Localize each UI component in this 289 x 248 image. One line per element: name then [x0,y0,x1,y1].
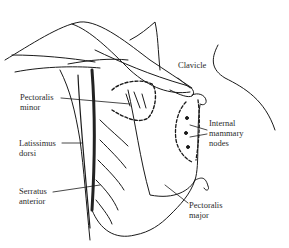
label-internal-mammary-line2: mammary [209,128,243,138]
label-latissimus-line2: dorsi [19,148,36,158]
label-pectoralis-minor-line1: Pectoralis [20,92,54,102]
label-internal-mammary-line1: Internal [209,118,235,128]
label-pectoralis-minor-line2: minor [20,102,40,112]
label-pectoralis-major-line2: major [189,210,209,220]
label-serratus-line1: Serratus [19,186,47,196]
anatomy-diagram: Clavicle Pectoralis minor Internal mamma… [0,0,289,248]
label-internal-mammary-line3: nodes [209,138,229,148]
label-clavicle: Clavicle [178,60,206,70]
label-pectoralis-major-line1: Pectoralis [189,200,223,210]
anatomy-illustration [0,0,289,248]
label-latissimus-line1: Latissimus [19,138,56,148]
label-serratus-line2: anterior [19,196,45,206]
